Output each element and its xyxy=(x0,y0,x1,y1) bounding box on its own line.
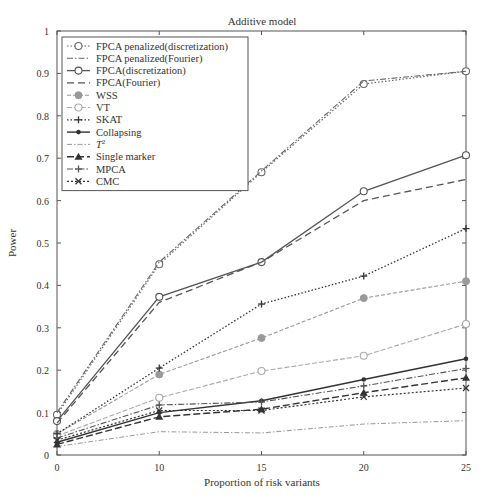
legend: FPCA penalized(discretization)FPCA penal… xyxy=(62,37,248,191)
legend-label: SKAT xyxy=(96,114,123,125)
y-tick-label: 0.8 xyxy=(37,111,50,122)
x-tick-label: 25 xyxy=(461,462,471,473)
x-tick-label: 15 xyxy=(257,462,267,473)
x-tick-label: 10 xyxy=(154,462,164,473)
legend-label: CMC xyxy=(96,176,119,187)
series-line xyxy=(54,152,470,425)
y-tick-label: 0.4 xyxy=(37,280,50,291)
x-axis-label: Proportion of risk variants xyxy=(204,476,320,488)
y-tick-label: 0.1 xyxy=(37,408,50,419)
x-tick-label: 20 xyxy=(359,462,369,473)
legend-label: VT xyxy=(96,102,111,113)
y-tick-label: 0.9 xyxy=(37,68,50,79)
y-tick-label: 0 xyxy=(44,450,49,461)
legend-label: MPCA xyxy=(96,164,126,175)
legend-label: WSS xyxy=(96,90,118,101)
legend-label: FPCA penalized(discretization) xyxy=(96,41,229,53)
y-axis-label: Power xyxy=(6,229,18,257)
legend-label: FPCA penalized(Fourier) xyxy=(96,53,203,65)
chart-title: Additive model xyxy=(228,15,297,27)
y-tick-label: 0.7 xyxy=(37,153,50,164)
y-tick-label: 0.3 xyxy=(37,323,50,334)
y-tick-label: 0.2 xyxy=(37,365,50,376)
legend-label: Collapsing xyxy=(96,127,142,138)
chart: Additive model 00.10.20.30.40.50.60.70.8… xyxy=(0,0,490,503)
legend-label: FPCA(Fourier) xyxy=(96,77,161,89)
series-line xyxy=(54,365,470,442)
y-tick-label: 1 xyxy=(44,26,49,37)
y-tick-label: 0.5 xyxy=(37,238,50,249)
y-tick-label: 0.6 xyxy=(37,196,50,207)
x-tick-label: 0 xyxy=(55,462,60,473)
legend-label: FPCA(discretization) xyxy=(96,65,186,77)
legend-label: Single marker xyxy=(96,151,156,162)
